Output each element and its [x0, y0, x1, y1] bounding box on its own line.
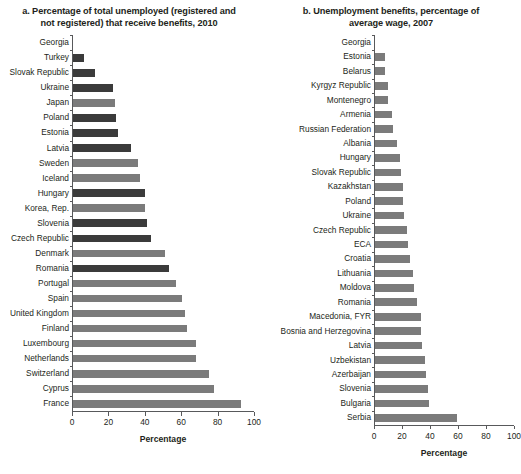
x-tick-mark: [486, 426, 487, 429]
category-label-row: Belarus: [343, 64, 374, 78]
x-tick-mark: [402, 426, 403, 429]
bar-row: [73, 80, 254, 95]
y-tick-mark: [70, 306, 73, 307]
panel-a-xaxis-wrap: 020406080100: [4, 411, 254, 432]
category-label: Azerbaijan: [332, 370, 374, 379]
bar-row: [375, 93, 514, 107]
y-tick-mark: [70, 351, 73, 352]
y-tick-mark: [372, 107, 375, 108]
category-label: Albania: [343, 139, 374, 148]
bar: [73, 250, 165, 258]
x-tick-mark: [430, 426, 431, 429]
bar-row: [375, 122, 514, 136]
y-tick-mark: [372, 266, 375, 267]
category-label-row: Netherlands: [24, 351, 72, 366]
category-label-row: Slovenia: [339, 382, 374, 396]
bar: [375, 183, 403, 191]
bar: [73, 219, 147, 227]
y-tick-mark: [372, 382, 375, 383]
category-label-row: Turkey: [44, 50, 72, 65]
bar: [73, 265, 169, 273]
category-label: Ukraine: [40, 83, 72, 92]
category-label: Bosnia and Herzegovina: [281, 327, 374, 336]
category-label: Estonia: [343, 52, 374, 61]
panel-a-bars: [72, 35, 254, 411]
bar: [73, 189, 145, 197]
panel-b-axis-title: Percentage: [268, 448, 514, 458]
category-label-row: Slovak Republic: [10, 65, 73, 80]
panel-a-category-labels: GeorgiaTurkeySlovak RepublicUkraineJapan…: [4, 35, 72, 411]
chart-panel-a: a. Percentage of total unemployed (regis…: [0, 0, 262, 474]
y-tick-mark: [372, 35, 375, 36]
y-tick-mark: [372, 136, 375, 137]
y-tick-mark: [70, 156, 73, 157]
bar: [73, 54, 84, 62]
bar: [73, 129, 118, 137]
bar-row: [375, 50, 514, 64]
category-label-row: Serbia: [347, 411, 374, 425]
category-label: Turkey: [44, 53, 72, 62]
category-label-row: Portugal: [38, 276, 72, 291]
chart-panel-b: b. Unemployment benefits, percentage of …: [262, 0, 520, 474]
bar-row: [375, 266, 514, 280]
category-label: Kyrgyz Republic: [311, 81, 374, 90]
bar-row: [73, 171, 254, 186]
category-label-row: Hungary: [340, 151, 374, 165]
y-tick-mark: [372, 180, 375, 181]
bar: [73, 99, 115, 107]
category-label-row: Kyrgyz Republic: [311, 79, 374, 93]
bar: [375, 385, 428, 393]
category-label-row: Korea, Rep.: [25, 201, 72, 216]
bar: [73, 69, 95, 77]
bar-row: [73, 65, 254, 80]
category-label-row: Georgia: [39, 35, 72, 50]
category-label-row: Montenegro: [327, 93, 374, 107]
category-label-row: Sweden: [39, 156, 72, 171]
y-tick-mark: [372, 310, 375, 311]
category-label: Georgia: [39, 38, 72, 47]
panel-a-plot: GeorgiaTurkeySlovak RepublicUkraineJapan…: [4, 35, 254, 411]
category-label: Poland: [345, 197, 374, 206]
bar: [375, 111, 392, 119]
bar: [375, 125, 393, 133]
bar: [73, 159, 138, 167]
category-label-row: Cyprus: [43, 381, 72, 396]
bar-row: [375, 396, 514, 410]
category-label: France: [43, 399, 72, 408]
category-label-row: Latvia: [47, 141, 72, 156]
category-label-row: Czech Republic: [11, 231, 72, 246]
category-label: Bulgaria: [341, 399, 374, 408]
bar: [73, 325, 187, 333]
bar: [375, 53, 385, 61]
panel-b-bars: [374, 35, 514, 425]
bar-row: [375, 35, 514, 49]
y-tick-mark: [70, 246, 73, 247]
category-label-row: Czech Republic: [313, 223, 374, 237]
category-label-row: Ukraine: [40, 80, 72, 95]
bar: [73, 400, 241, 408]
category-label-row: Kazakhstan: [328, 180, 374, 194]
bar: [375, 327, 421, 335]
y-tick-mark: [372, 252, 375, 253]
y-tick-mark: [70, 35, 73, 36]
category-label: Serbia: [347, 413, 374, 422]
category-label: Hungary: [38, 189, 72, 198]
category-label: United Kingdom: [10, 309, 72, 318]
category-label-row: Uzbekistan: [330, 353, 374, 367]
bar-row: [73, 396, 254, 411]
x-tick-label: 80: [213, 417, 222, 427]
bar: [375, 342, 422, 350]
bar-row: [375, 180, 514, 194]
category-label-row: Bosnia and Herzegovina: [281, 324, 374, 338]
x-tick-mark: [72, 412, 73, 415]
category-label: Estonia: [41, 128, 72, 137]
bar-row: [73, 186, 254, 201]
bar: [375, 140, 397, 148]
y-tick-mark: [70, 276, 73, 277]
category-label: Slovak Republic: [312, 168, 375, 177]
x-tick-mark: [218, 412, 219, 415]
panel-a-xaxis: 020406080100: [72, 411, 254, 432]
category-label-row: Finland: [42, 321, 72, 336]
bar: [73, 355, 196, 363]
category-label: Montenegro: [327, 96, 374, 105]
